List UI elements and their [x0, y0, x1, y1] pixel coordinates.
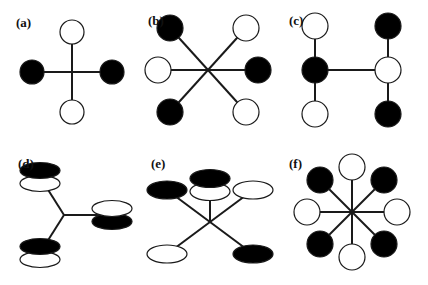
node-bottom [339, 244, 365, 270]
node-lower-left [307, 231, 333, 257]
node-lower-right [233, 99, 259, 125]
node-left [294, 199, 320, 225]
node-right-upper [92, 201, 132, 217]
panel-label-c: (c) [289, 14, 303, 27]
panel-c-diagram [285, 0, 428, 142]
node-bottom [60, 100, 84, 124]
node-lower-left-upper [20, 239, 60, 255]
node-left [20, 60, 44, 84]
node-right [100, 60, 124, 84]
node-top [60, 20, 84, 44]
node-right-center [375, 57, 401, 83]
panel-b: (b) [140, 0, 283, 142]
panel-f-diagram [285, 143, 428, 285]
panel-label-f: (f) [289, 157, 302, 170]
node-right [245, 57, 271, 83]
node-upper-right [371, 167, 397, 193]
panel-label-d: (d) [18, 157, 34, 170]
node-lower-left [147, 245, 187, 263]
node-lower-left [157, 99, 183, 125]
panel-label-b: (b) [148, 14, 164, 27]
panel-f: (f) [285, 143, 428, 285]
panel-a: (a) [0, 0, 143, 142]
panel-label-e: (e) [151, 157, 165, 170]
figure-root: (a)(b)(c)(d)(e)(f) [0, 0, 428, 285]
panel-c: (c) [285, 0, 428, 142]
node-upper-right [233, 181, 273, 199]
node-top [339, 154, 365, 180]
node-lower-right [233, 245, 273, 263]
node-right [384, 199, 410, 225]
node-left-bottom [302, 101, 328, 127]
node-upper-left [307, 167, 333, 193]
node-axial-top-upper [190, 170, 230, 188]
panel-e: (e) [143, 143, 286, 285]
panel-d: (d) [0, 143, 143, 285]
node-upper-right [233, 15, 259, 41]
node-left [145, 57, 171, 83]
node-left-center [302, 57, 328, 83]
node-right-bottom [375, 101, 401, 127]
node-upper-left [147, 181, 187, 199]
node-right-top [375, 13, 401, 39]
panel-label-a: (a) [16, 16, 31, 29]
node-lower-right [371, 231, 397, 257]
node-left-top [302, 13, 328, 39]
